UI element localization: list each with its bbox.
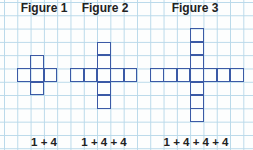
square xyxy=(30,68,44,82)
square xyxy=(70,68,84,82)
figure-1-cross xyxy=(0,0,253,150)
square xyxy=(190,95,204,109)
square xyxy=(97,68,111,82)
square xyxy=(44,68,58,82)
square xyxy=(150,68,164,82)
figure-2-cross xyxy=(0,0,253,150)
square xyxy=(124,68,138,82)
figure-2-expression: 1 + 4 + 4 xyxy=(70,135,138,149)
square xyxy=(177,68,191,82)
square xyxy=(163,68,177,82)
square xyxy=(190,108,204,122)
square xyxy=(30,55,44,69)
figure-1-title: Figure 1 xyxy=(14,1,74,15)
square xyxy=(97,82,111,96)
square xyxy=(97,42,111,56)
square xyxy=(217,68,231,82)
square xyxy=(190,28,204,42)
figure-2-title: Figure 2 xyxy=(74,1,136,15)
square xyxy=(230,68,244,82)
square xyxy=(97,55,111,69)
figure-3-expression: 1 + 4 + 4 + 4 xyxy=(150,135,242,149)
figure-1-expression: 1 + 4 xyxy=(14,135,74,149)
square xyxy=(190,82,204,96)
square xyxy=(97,95,111,109)
square xyxy=(30,82,44,96)
square xyxy=(84,68,98,82)
square xyxy=(190,55,204,69)
graph-paper-diagram: Figure 1 Figure 2 Figure 3 1 + 4 1 + 4 +… xyxy=(0,0,253,150)
square xyxy=(190,68,204,82)
square xyxy=(203,68,217,82)
figure-3-cross xyxy=(0,0,253,150)
square xyxy=(110,68,124,82)
figure-3-title: Figure 3 xyxy=(160,1,230,15)
square xyxy=(190,42,204,56)
square xyxy=(17,68,31,82)
